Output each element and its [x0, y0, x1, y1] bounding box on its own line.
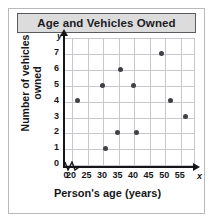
y-tick-label: 5 — [47, 79, 59, 89]
x-axis-arrow-icon — [193, 163, 200, 171]
y-tick-label: 2 — [47, 126, 59, 136]
x-tick-label: 50 — [156, 170, 172, 180]
x-tick-label: 40 — [125, 170, 141, 180]
y-tick-label: 1 — [47, 142, 59, 152]
gridline-horizontal — [64, 54, 194, 55]
x-tick-label: 25 — [79, 170, 95, 180]
x-tick-label: 35 — [110, 170, 126, 180]
data-point — [134, 130, 139, 135]
y-tick-label: 7 — [47, 47, 59, 57]
y-axis-line — [63, 35, 65, 168]
x-tick-label: 55 — [172, 170, 188, 180]
x-tick-label: 45 — [141, 170, 157, 180]
x-axis-label: Person's age (years) — [17, 187, 198, 199]
y-tick-label: 4 — [47, 95, 59, 105]
data-point — [131, 83, 136, 88]
plot-area — [63, 38, 195, 166]
data-point — [103, 146, 108, 151]
data-point — [159, 51, 164, 56]
x-tick-label: 30 — [94, 170, 110, 180]
gridline-horizontal — [64, 118, 194, 119]
x-tick-label: 20 — [63, 170, 79, 180]
data-point — [100, 83, 105, 88]
y-tick-label: 6 — [47, 63, 59, 73]
y-tick-label: 0 — [47, 158, 59, 168]
data-point — [115, 130, 120, 135]
page-title: Age and Vehicles Owned — [37, 17, 175, 29]
y-axis-label-line2: owned — [31, 66, 43, 99]
chart-title-bar: Age and Vehicles Owned — [17, 13, 196, 33]
y-axis-letter: y — [57, 31, 62, 41]
gridline-horizontal — [64, 133, 194, 134]
y-tick-label: 3 — [47, 111, 59, 121]
gridline-horizontal — [64, 86, 194, 87]
gridline-horizontal — [64, 102, 194, 103]
x-axis-line — [63, 166, 195, 168]
data-point — [118, 67, 123, 72]
y-axis-label: Number of vehicles owned — [19, 23, 43, 143]
x-axis-letter: x — [197, 171, 202, 181]
gridline-horizontal — [64, 70, 194, 71]
gridline-horizontal — [64, 149, 194, 150]
y-axis-label-line1: Number of vehicles — [19, 35, 31, 132]
chart-figure: Age and Vehicles Owned y x 0202530354045… — [8, 8, 205, 214]
